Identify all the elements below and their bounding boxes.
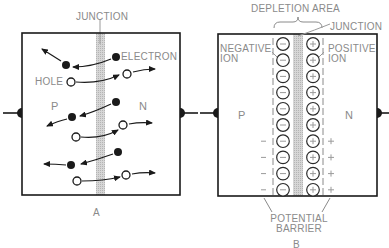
potential-barrier-label: POTENTIAL BARRIER (268, 214, 330, 234)
depletion-brace (274, 17, 322, 28)
electron-icon (68, 113, 76, 121)
arrow-icon (129, 123, 152, 124)
contact-left-a (17, 108, 22, 118)
negative-ion-icon (277, 103, 290, 116)
depletion-area-label: DEPLETION AREA (251, 4, 340, 14)
negative-ion-icon (277, 119, 290, 132)
positive-ion-column (307, 38, 320, 196)
positive-ion-label: POSITIVE ION (328, 44, 376, 64)
arrow-icon (132, 173, 155, 174)
negative-ion-column (277, 38, 290, 196)
electron-icon (112, 53, 120, 61)
negative-ion-icon (277, 167, 290, 180)
pn-junction-diagram (0, 0, 389, 248)
hole-icon (73, 177, 81, 185)
positive-ion-icon (307, 86, 320, 99)
arrow-icon (42, 49, 61, 61)
hole-icon (67, 78, 75, 86)
negative-ion-icon (277, 184, 290, 197)
caption-a: A (93, 208, 100, 218)
negative-ion-icon (277, 86, 290, 99)
positive-ion-icon (307, 135, 320, 148)
n-region-label-b: N (345, 110, 353, 120)
junction-label-b: JUNCTION (330, 22, 382, 32)
hole-icon (123, 70, 131, 78)
contact-right-b (377, 108, 382, 118)
negative-ion-label-line2: ION (220, 54, 271, 64)
positive-ion-icon (307, 119, 320, 132)
positive-ion-icon (307, 70, 320, 83)
electron-icon (62, 61, 70, 69)
electron-label: ELECTRON (121, 52, 177, 62)
hole-icon (119, 121, 127, 129)
junction-strip-b (293, 34, 303, 196)
positive-ion-icon (307, 184, 320, 197)
barrier-leader-left (264, 198, 272, 212)
p-region-label-b: P (238, 110, 246, 120)
contact-left-b (213, 108, 218, 118)
positive-ion-icon (307, 151, 320, 164)
potential-barrier-line2: BARRIER (268, 224, 330, 234)
barrier-leader-right (322, 198, 330, 212)
negative-ion-label: NEGATIVE ION (220, 44, 271, 64)
hole-icon (122, 171, 130, 179)
hole-icon (72, 133, 80, 141)
contact-right-a (180, 108, 185, 118)
electron-icon (67, 161, 75, 169)
arrow-icon (80, 104, 111, 116)
arrow-icon (47, 119, 67, 126)
negative-ion-icon (277, 151, 290, 164)
electron-icon (114, 148, 122, 156)
positive-ion-label-line2: ION (328, 54, 376, 64)
negative-ion-icon (277, 54, 290, 67)
n-region-label-a: N (139, 101, 147, 111)
negative-ion-icon (277, 135, 290, 148)
positive-ion-icon (307, 167, 320, 180)
arrow-icon (44, 164, 66, 165)
positive-ion-icon (307, 103, 320, 116)
junction-label-a: JUNCTION (76, 12, 128, 22)
arrow-icon (133, 69, 155, 72)
caption-b: B (293, 240, 300, 248)
positive-ion-icon (307, 54, 320, 67)
negative-ion-icon (277, 38, 290, 51)
positive-ion-icon (307, 38, 320, 51)
panel-a (3, 19, 198, 195)
electron-icon (112, 98, 120, 106)
arrow-icon (73, 59, 111, 67)
hole-label: HOLE (35, 77, 63, 87)
p-region-label-a: P (51, 101, 59, 111)
negative-ion-icon (277, 70, 290, 83)
junction-strip-a (96, 33, 105, 195)
